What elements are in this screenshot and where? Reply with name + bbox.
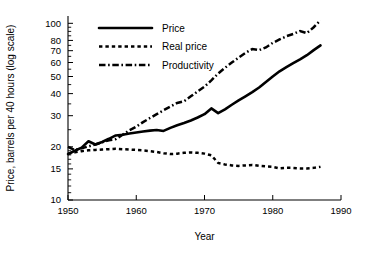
y-axis-ticks: 101520304050607080100 [45,18,73,206]
y-axis-title: Price, barrels per 40 hours (log scale) [5,25,16,192]
chart-container: 101520304050607080100 195019601970198019… [0,0,373,254]
legend-label-productivity: Productivity [162,60,214,71]
chart-legend: PriceReal priceProductivity [99,23,214,71]
x-axis-title: Year [194,231,215,242]
y-tick-label: 20 [50,141,61,152]
legend-label-price: Price [162,23,185,34]
y-tick-label: 40 [50,88,61,99]
x-tick-label: 1970 [194,205,215,216]
legend-label-real-price: Real price [162,41,207,52]
y-tick-label: 30 [50,110,61,121]
line-chart: 101520304050607080100 195019601970198019… [0,0,373,254]
x-tick-label: 1960 [126,205,147,216]
y-tick-label: 70 [50,45,61,56]
x-tick-label: 1990 [330,205,351,216]
x-tick-label: 1980 [262,205,283,216]
x-axis-ticks: 19501960197019801990 [57,195,351,216]
y-tick-label: 15 [50,163,61,174]
x-tick-label: 1950 [57,205,78,216]
y-tick-label: 100 [45,18,61,29]
y-tick-label: 60 [50,57,61,68]
y-tick-label: 50 [50,71,61,82]
y-tick-label: 80 [50,35,61,46]
series-line-real-price [68,149,321,169]
series-line-productivity [68,20,321,150]
y-tick-label: 10 [50,194,61,205]
